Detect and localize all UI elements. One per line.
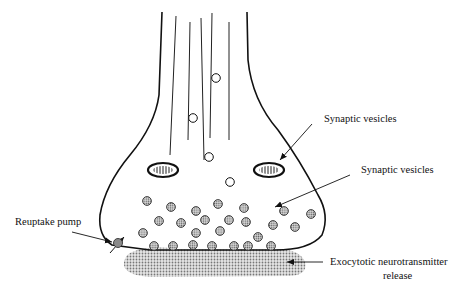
- synaptic-vesicles: [139, 197, 316, 242]
- label-synaptic-vesicles-mid: Synaptic vesicles: [361, 164, 434, 176]
- microtubules: [170, 13, 229, 160]
- synapse-diagram: [0, 0, 461, 293]
- neurotransmitter-release-cloud: [124, 248, 306, 277]
- label-exocytotic-release-line2: release: [383, 270, 412, 282]
- label-exocytotic-release-line1: Exocytotic neurotransmitter: [330, 256, 448, 268]
- empty-vesicles: [189, 74, 235, 187]
- mitochondria: [148, 163, 284, 177]
- label-synaptic-vesicles-top: Synaptic vesicles: [324, 113, 397, 125]
- label-reuptake-pump: Reuptake pump: [15, 216, 81, 228]
- axon-terminal-membrane: [100, 12, 162, 250]
